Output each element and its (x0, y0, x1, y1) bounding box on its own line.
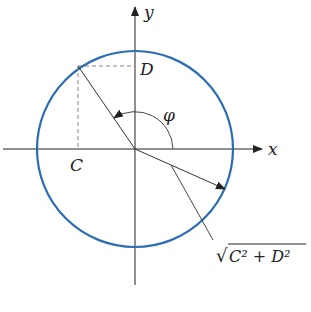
radius-expression: C² + D² (229, 247, 290, 266)
radius-label: √ C² + D² (216, 244, 306, 266)
y-axis-label: y (143, 2, 154, 22)
radical-sign: √ (216, 245, 228, 266)
phase-diagram: y x D C φ √ C² + D² (0, 0, 311, 312)
point-label-d: D (139, 59, 154, 79)
x-axis-label: x (268, 139, 278, 159)
radius-line (78, 66, 135, 149)
radius-arrow (135, 149, 225, 189)
angle-label-phi: φ (163, 105, 175, 125)
point-label-c: C (70, 155, 83, 175)
